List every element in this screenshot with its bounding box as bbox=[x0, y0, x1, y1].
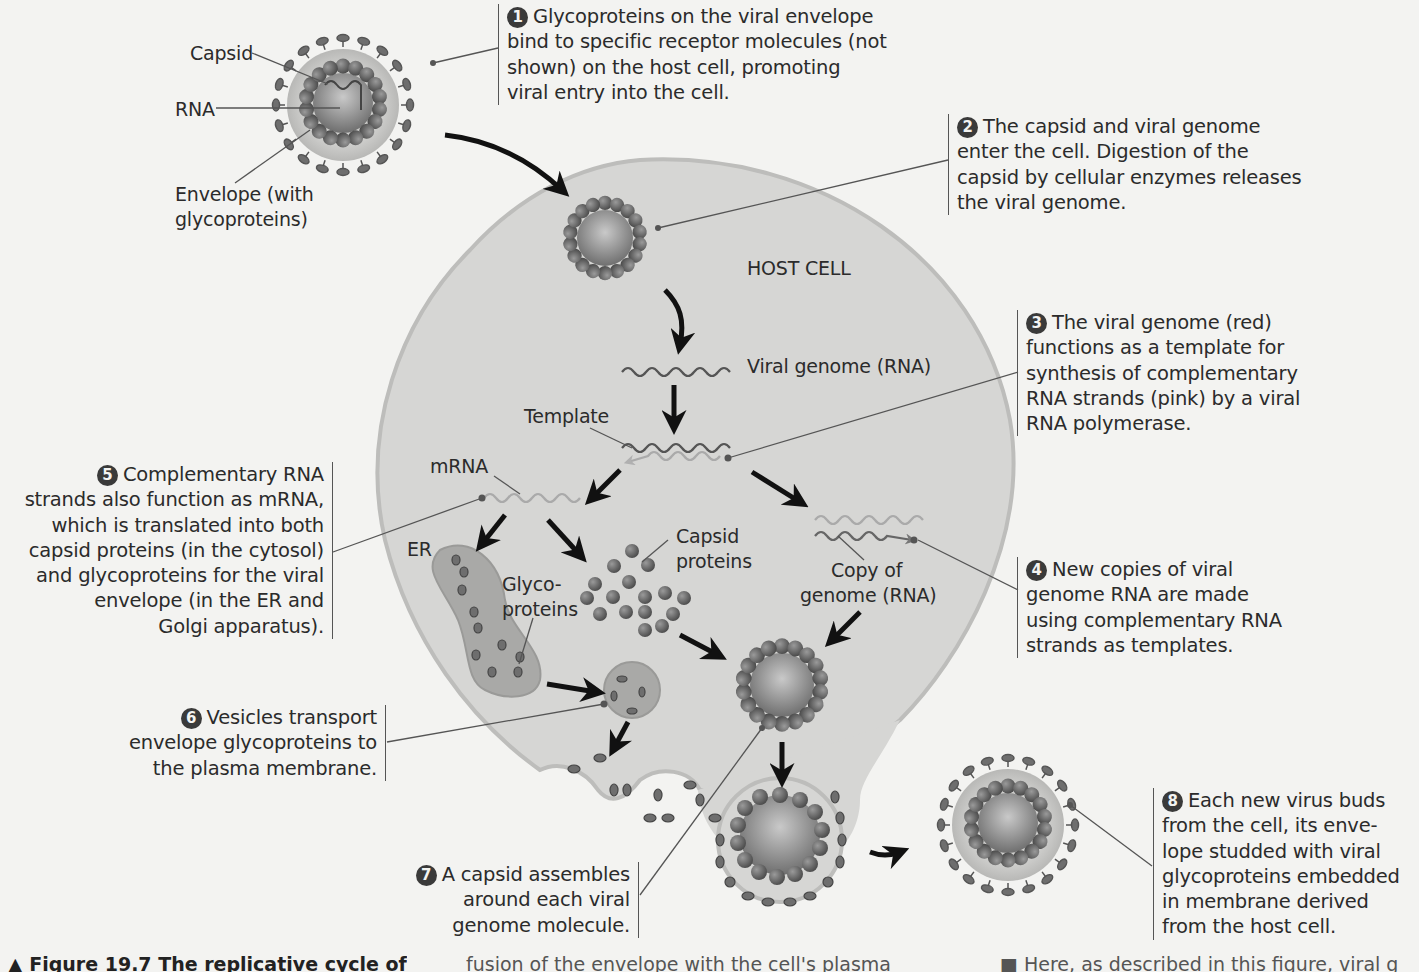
step-2-text: 2The capsid and viral genome enter the c… bbox=[948, 114, 1302, 215]
step-8-text: 8Each new virus buds from the cell, its … bbox=[1153, 788, 1400, 940]
step-number-badge: 5 bbox=[97, 465, 118, 486]
vesicle bbox=[604, 662, 660, 718]
virion-released bbox=[938, 755, 1079, 896]
step-3-text: 3The viral genome (red) functions as a t… bbox=[1017, 310, 1300, 436]
label-er: ER bbox=[407, 537, 432, 562]
figure-caption: ▲ Figure 19.7 The replicative cycle of bbox=[8, 952, 407, 972]
step-7-text: 7A capsid assembles around each viral ge… bbox=[416, 862, 639, 938]
step-4-text: 4New copies of viral genome RNA are made… bbox=[1017, 557, 1282, 658]
step-number-badge: 6 bbox=[181, 708, 202, 729]
step-number-badge: 4 bbox=[1026, 560, 1047, 581]
label-capsid: Capsid bbox=[190, 41, 253, 66]
body-text-fragment: fusion of the envelope with the cell's p… bbox=[466, 952, 891, 972]
label-capsid-proteins-2: proteins bbox=[676, 549, 752, 574]
body-text-fragment-right: ■ Here, as described in this figure, vir… bbox=[1000, 952, 1398, 972]
label-copy-of-genome-2: genome (RNA) bbox=[800, 583, 937, 608]
label-host-cell: HOST CELL bbox=[747, 256, 851, 281]
label-envelope-2: glycoproteins) bbox=[175, 207, 308, 232]
step-number-badge: 7 bbox=[416, 865, 437, 886]
step-6-text: 6Vesicles transport envelope glycoprotei… bbox=[129, 705, 386, 781]
step-number-badge: 2 bbox=[957, 117, 978, 138]
arrow-release bbox=[870, 852, 900, 855]
step-5-text: 5Complementary RNA strands also function… bbox=[25, 462, 333, 639]
label-glycoproteins-1: Glyco- bbox=[502, 572, 561, 597]
step-number-badge: 3 bbox=[1026, 313, 1047, 334]
figure-viral-replicative-cycle: Capsid RNA Envelope (with glycoproteins)… bbox=[0, 0, 1419, 972]
label-template: Template bbox=[524, 404, 609, 429]
label-viral-genome: Viral genome (RNA) bbox=[747, 354, 931, 379]
step-1-text: 1Glycoproteins on the viral envelope bin… bbox=[498, 4, 887, 105]
arrow-entry bbox=[445, 135, 562, 190]
label-glycoproteins-2: proteins bbox=[502, 597, 578, 622]
label-copy-of-genome-1: Copy of bbox=[831, 558, 902, 583]
label-rna: RNA bbox=[175, 97, 215, 122]
label-envelope-1: Envelope (with bbox=[175, 182, 314, 207]
host-cell bbox=[378, 159, 1014, 870]
label-mrna: mRNA bbox=[430, 454, 488, 479]
virion-entering bbox=[273, 35, 414, 176]
label-capsid-proteins-1: Capsid bbox=[676, 524, 739, 549]
step-number-badge: 8 bbox=[1162, 791, 1183, 812]
step-number-badge: 1 bbox=[507, 7, 528, 28]
